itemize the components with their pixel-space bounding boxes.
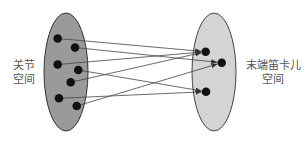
cartesian-point <box>201 47 210 56</box>
cartesian-space-label: 末端笛卡儿 空间 <box>241 59 305 87</box>
cartesian-space-ellipse <box>192 13 236 131</box>
joint-point <box>53 34 62 43</box>
cartesian-space-label-line1: 末端笛卡儿 <box>241 59 305 73</box>
joint-space-label-line2: 空间 <box>9 73 39 87</box>
cartesian-space-label-line2: 空间 <box>241 73 305 87</box>
joint-point <box>55 94 64 103</box>
joint-space-label-line1: 关节 <box>9 59 39 73</box>
joint-point <box>53 60 62 69</box>
joint-space-label: 关节 空间 <box>9 59 39 87</box>
joint-point <box>74 66 83 75</box>
mapping-arrow <box>78 70 201 91</box>
cartesian-point <box>202 87 211 96</box>
cartesian-point <box>217 58 226 67</box>
mapping-arrow <box>71 53 202 83</box>
joint-point <box>66 78 75 87</box>
joint-point <box>71 43 80 52</box>
joint-point <box>72 102 81 111</box>
